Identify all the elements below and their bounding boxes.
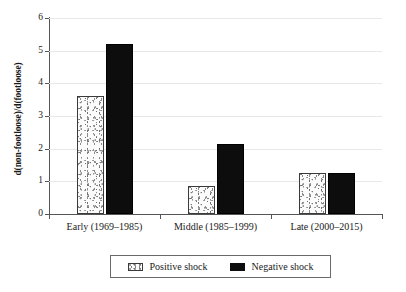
x-category-label-0: Early (1969–1985) [49,221,160,232]
gridline [49,51,382,52]
legend-item-negative-shock: Negative shock [230,262,314,272]
legend-item-positive-shock: Positive shock [128,262,208,272]
legend-swatch-negative-icon [230,263,245,271]
x-category-label-2: Late (2000–2015) [271,221,382,232]
y-tick-label: 4 [38,79,43,89]
y-tick-label: 5 [38,46,43,56]
y-tick-mark [45,116,49,117]
bar-positive-2 [299,173,326,214]
x-axis-separator [160,214,161,219]
x-axis-separator [49,214,50,219]
legend-label-positive: Positive shock [150,262,208,272]
bar-negative-0 [106,44,133,214]
gridline [49,18,382,19]
y-tick-label: 0 [38,209,43,219]
chart-figure: d(non-footloose)/d(footloose) 0123456 Ea… [0,0,406,292]
y-tick-label: 6 [38,13,43,23]
chart-legend: Positive shock Negative shock [110,255,331,278]
x-category-label-1: Middle (1985–1999) [160,221,271,232]
x-axis-separator [271,214,272,219]
x-axis-line [49,214,383,215]
y-tick-mark [45,18,49,19]
bar-negative-1 [217,144,244,214]
plot-area: 0123456 [49,18,382,214]
x-axis-separator [382,214,383,219]
bar-negative-2 [328,173,355,214]
y-tick-label: 1 [38,177,43,187]
bar-positive-1 [188,186,215,214]
y-tick-mark [45,51,49,52]
y-tick-mark [45,181,49,182]
y-tick-mark [45,149,49,150]
bar-positive-0 [77,96,104,214]
legend-swatch-positive-icon [128,263,143,271]
y-tick-label: 3 [38,111,43,121]
y-tick-label: 2 [38,144,43,154]
gridline [49,83,382,84]
y-axis-label: d(non-footloose)/d(footloose) [13,19,23,219]
y-tick-mark [45,83,49,84]
legend-label-negative: Negative shock [252,262,314,272]
